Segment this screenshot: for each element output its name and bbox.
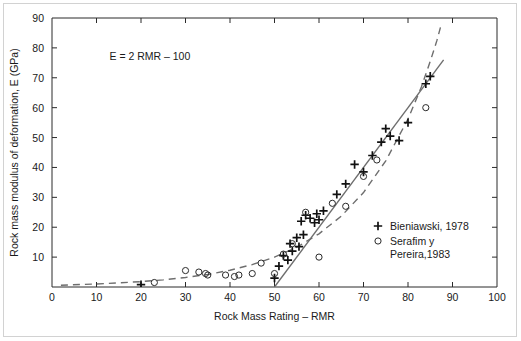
data-point-circle (249, 270, 255, 276)
data-point-plus (333, 190, 341, 198)
x-tick-label: 20 (135, 291, 147, 303)
x-tick-label: 50 (269, 291, 281, 303)
x-tick-label: 40 (224, 291, 236, 303)
x-axis-title: Rock Mass Rating – RMR (214, 310, 335, 322)
x-tick-label: 70 (358, 291, 370, 303)
y-tick-label: 10 (32, 251, 44, 263)
legend-label-bieniawski: Bieniawski, 1978 (390, 220, 469, 232)
x-tick-label: 0 (49, 291, 55, 303)
data-point-plus (275, 262, 283, 270)
x-tick-label: 30 (180, 291, 192, 303)
y-tick-label: 40 (32, 161, 44, 173)
legend-marker-plus (374, 222, 382, 230)
y-axis-title: Rock mass modulus of deformation, E (GPa… (8, 48, 20, 256)
serafim-pereira-fit-curve (61, 24, 441, 285)
y-tick-label: 70 (32, 72, 44, 84)
data-point-circle (329, 200, 335, 206)
x-tick-label: 60 (313, 291, 325, 303)
legend: Bieniawski, 1978Serafim yPereira,1983 (374, 220, 469, 260)
equation-annotation: E = 2 RMR – 100 (109, 50, 190, 62)
data-point-circle (316, 254, 322, 260)
data-point-circle (343, 203, 349, 209)
data-point-plus (395, 136, 403, 144)
y-tick-label: 30 (32, 191, 44, 203)
legend-label-serafim: Serafim y (390, 235, 435, 247)
x-tick-label: 80 (402, 291, 414, 303)
data-point-circle (423, 105, 429, 111)
data-point-circle (151, 279, 157, 285)
figure-container: 0102030405060708090100102030405060708090… (0, 0, 521, 341)
data-point-circle (374, 157, 380, 163)
data-point-circle (258, 260, 264, 266)
data-point-circle (182, 267, 188, 273)
series-serafim-pereira (151, 105, 429, 286)
y-tick-label: 80 (32, 42, 44, 54)
legend-marker-circle (375, 238, 381, 244)
y-tick-label: 90 (32, 12, 44, 24)
data-point-circle (222, 272, 228, 278)
data-point-circle (196, 269, 202, 275)
y-tick-label: 60 (32, 102, 44, 114)
fit-lines-group (61, 24, 444, 287)
data-point-plus (297, 217, 305, 225)
x-tick-label: 90 (447, 291, 459, 303)
data-point-plus (350, 160, 358, 168)
y-tick-label: 20 (32, 221, 44, 233)
data-point-plus (288, 247, 296, 255)
y-tick-label: 50 (32, 132, 44, 144)
data-point-plus (386, 132, 394, 140)
x-tick-label: 100 (488, 291, 506, 303)
data-point-plus (404, 118, 412, 126)
x-tick-label: 10 (91, 291, 103, 303)
scatter-chart: 0102030405060708090100102030405060708090… (0, 0, 521, 341)
data-point-plus (382, 124, 390, 132)
legend-label-serafim-line2: Pereira,1983 (390, 248, 450, 260)
